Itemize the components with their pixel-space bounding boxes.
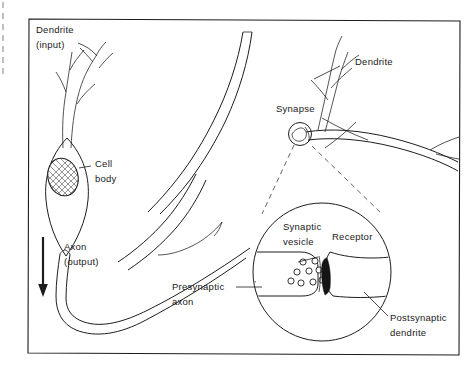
label-cell-body-line2: body — [95, 173, 117, 184]
label-synapse: Synapse — [276, 103, 315, 114]
leader-postsynaptic-dendrite — [364, 292, 388, 316]
label-synaptic-vesicle-line2: vesicle — [283, 236, 314, 247]
upper-axon-tube — [118, 32, 252, 270]
label-cell-body-line1: Cell — [95, 158, 112, 169]
synapse-marker — [289, 123, 312, 146]
label-synaptic-vesicle-line1: Synaptic — [283, 221, 321, 232]
synaptic-vesicles — [288, 258, 325, 286]
postsynaptic-upper-membrane — [330, 252, 410, 258]
axon-direction-arrow — [38, 237, 48, 297]
receptor-wedge — [322, 258, 331, 295]
leader-dendrite-right — [314, 66, 340, 79]
label-dendrite-input-line2: (input) — [36, 39, 65, 50]
label-postsynaptic-dendrite-line1: Postsynaptic — [390, 312, 447, 323]
label-dendrite-right: Dendrite — [355, 56, 393, 67]
label-axon-output-line2: (output) — [64, 256, 99, 267]
cell-body-outline — [46, 138, 89, 256]
label-axon-output-line1: Axon — [64, 241, 87, 252]
neuron-synapse-diagram: Dendrite (input) Cell body Axon (output)… — [0, 0, 471, 368]
label-postsynaptic-dendrite-line2: dendrite — [390, 327, 426, 338]
nucleus — [40, 138, 90, 242]
synapse-magnified-content — [238, 250, 420, 298]
label-receptor: Receptor — [332, 231, 373, 242]
postsynaptic-lower-membrane — [333, 291, 412, 298]
magnify-line-left — [262, 145, 294, 214]
figure-canvas: Dendrite (input) Cell body Axon (output)… — [0, 0, 471, 368]
label-dendrite-input-line1: Dendrite — [36, 24, 74, 35]
label-presynaptic-axon-line1: Presynaptic — [172, 281, 224, 292]
dendrite-input-branches — [56, 42, 113, 148]
label-presynaptic-axon-line2: axon — [172, 296, 194, 307]
